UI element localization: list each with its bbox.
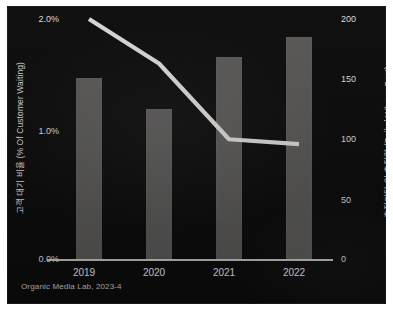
x-axis-tick-2021: 2021 (194, 268, 254, 278)
x-axis-tick-2022: 2022 (264, 268, 324, 278)
line-series-waiting-rate (7, 6, 386, 304)
plot-area: 고객 대기 비율 (% Of Customer Waiting) 충전기당 일 … (7, 6, 386, 304)
chart-figure: 고객 대기 비율 (% Of Customer Waiting) 충전기당 일 … (0, 0, 393, 311)
chart-credit: Organic Media Lab, 2023-4 (21, 282, 122, 291)
x-axis-tick-2020: 2020 (124, 268, 184, 278)
chart-panel: 고객 대기 비율 (% Of Customer Waiting) 충전기당 일 … (7, 6, 386, 304)
x-axis-tick-2019: 2019 (54, 268, 114, 278)
